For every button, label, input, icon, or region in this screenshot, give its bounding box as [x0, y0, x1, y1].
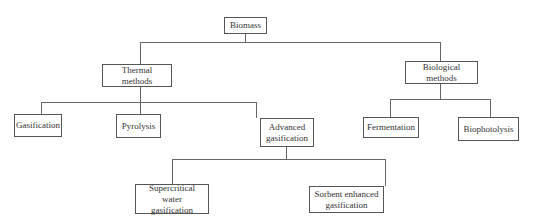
- node-label: Biomass: [230, 20, 261, 31]
- connector-biological-down: [440, 83, 441, 99]
- connector-to-biophotolysis: [490, 99, 491, 117]
- node-supercritical-water-gasification: Supercritical water gasification: [135, 184, 209, 214]
- node-biological-methods: Biological methods: [405, 61, 478, 84]
- node-fermentation: Fermentation: [363, 117, 419, 138]
- connector-to-pyrolysis: [140, 102, 141, 114]
- node-label: Gasification: [16, 120, 60, 131]
- connector-to-supercritical: [172, 159, 173, 184]
- node-label-line1: Advanced: [269, 122, 305, 133]
- node-label: Thermal methods: [106, 65, 168, 87]
- node-label-line2: gasification: [151, 205, 193, 216]
- node-label: Biophotolysis: [463, 124, 513, 135]
- connector-to-sorbent: [385, 159, 386, 186]
- connector-to-advanced: [256, 102, 257, 118]
- node-label-line2: gasification: [266, 133, 308, 144]
- node-label-line1: Sorbent enhanced: [314, 189, 378, 200]
- connector-to-biological: [440, 42, 441, 61]
- connector-to-fermentation: [390, 99, 391, 117]
- connector-biomass-down: [245, 33, 246, 42]
- connector-thermal-horizontal: [41, 102, 257, 103]
- node-label-line1: Supercritical water: [139, 183, 205, 205]
- node-label: Pyrolysis: [122, 121, 156, 132]
- node-biophotolysis: Biophotolysis: [458, 117, 519, 141]
- node-label: Biological methods: [409, 62, 474, 84]
- node-gasification: Gasification: [14, 114, 62, 137]
- node-thermal-methods: Thermal methods: [102, 64, 172, 87]
- connector-advanced-horizontal: [172, 159, 386, 160]
- connector-advanced-down: [286, 146, 287, 159]
- node-sorbent-enhanced-gasification: Sorbent enhanced gasification: [309, 186, 384, 213]
- node-biomass: Biomass: [224, 17, 267, 34]
- connector-thermal-down: [140, 86, 141, 102]
- connector-to-gasification: [41, 102, 42, 114]
- connector-biological-horizontal: [390, 99, 491, 100]
- node-label: Fermentation: [367, 122, 415, 133]
- node-pyrolysis: Pyrolysis: [116, 114, 161, 138]
- connector-to-thermal: [140, 42, 141, 64]
- node-label-line2: gasification: [326, 200, 368, 211]
- connector-root-horizontal: [140, 42, 441, 43]
- node-advanced-gasification: Advanced gasification: [260, 118, 314, 147]
